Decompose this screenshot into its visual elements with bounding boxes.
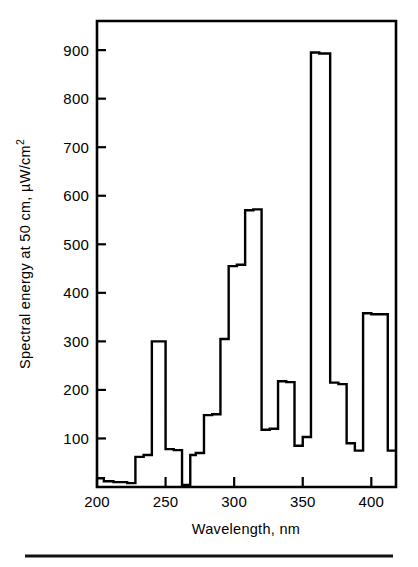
y-tick-label-100: 100 (63, 430, 89, 447)
x-axis-tick-labels: 200250300350400 (84, 493, 384, 510)
y-tick-label-500: 500 (63, 236, 89, 253)
spectral-energy-step-curve (97, 53, 396, 486)
y-axis-title-group: Spectral energy at 50 cm, µW/cm2 (14, 139, 33, 369)
y-tick-label-300: 300 (63, 333, 89, 350)
figure-container: 100200300400500600700800900 200250300350… (0, 0, 418, 567)
y-tick-label-700: 700 (63, 139, 89, 156)
x-tick-label-250: 250 (153, 493, 179, 510)
x-tick-label-400: 400 (358, 493, 384, 510)
y-axis-ticks (97, 50, 106, 438)
x-tick-label-200: 200 (84, 493, 110, 510)
y-tick-label-600: 600 (63, 187, 89, 204)
x-axis-title: Wavelength, nm (192, 521, 300, 537)
y-tick-label-400: 400 (63, 284, 89, 301)
spectral-energy-chart: 100200300400500600700800900 200250300350… (0, 0, 418, 567)
y-axis-title: Spectral energy at 50 cm, µW/cm2 (14, 139, 33, 369)
y-tick-label-200: 200 (63, 381, 89, 398)
y-axis-tick-labels: 100200300400500600700800900 (63, 42, 89, 447)
plot-frame (97, 21, 396, 487)
y-tick-label-800: 800 (63, 90, 89, 107)
x-tick-label-350: 350 (290, 493, 316, 510)
x-tick-label-300: 300 (221, 493, 247, 510)
y-tick-label-900: 900 (63, 42, 89, 59)
x-axis-ticks (97, 477, 371, 487)
